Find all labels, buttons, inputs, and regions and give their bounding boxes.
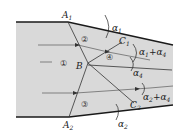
label-a2: A2 — [62, 120, 74, 131]
label-alpha2: α2 — [118, 119, 128, 130]
region-4-label: ④ — [106, 53, 113, 62]
label-alpha1: α1 — [112, 23, 122, 34]
shock-interaction-diagram: A1 A2 B C1 C2 ① ② ③ ④ α1 α1+α4 α4 α2+α4 … — [0, 0, 186, 140]
region-1-label: ① — [60, 59, 67, 68]
label-alpha2-plus-alpha4: α2+α4 — [143, 92, 171, 103]
label-a1: A1 — [61, 10, 72, 21]
label-b: B — [75, 61, 83, 71]
label-alpha1-plus-alpha4: α1+α4 — [139, 47, 167, 58]
region-2-label: ② — [81, 35, 88, 44]
region-3-label: ③ — [81, 100, 88, 109]
